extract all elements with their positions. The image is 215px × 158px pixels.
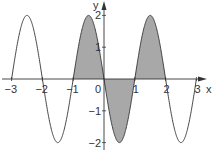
y-axis-arrow-icon xyxy=(102,1,107,10)
y-tick-label: 2 xyxy=(95,9,101,21)
x-tick-label: 0 xyxy=(95,83,101,95)
x-axis-label: x xyxy=(206,83,212,95)
x-tick-label: −2 xyxy=(35,83,48,95)
y-axis-label: y xyxy=(93,0,99,11)
y-tick-label: −1 xyxy=(88,105,101,117)
x-tick-label: −3 xyxy=(5,83,18,95)
sine-plot: −3−2−10123−2−112 x y xyxy=(0,0,215,158)
y-tick-label: −2 xyxy=(88,137,101,149)
x-axis-arrow-icon xyxy=(198,77,207,82)
chart-container: −3−2−10123−2−112 x y xyxy=(0,0,215,158)
